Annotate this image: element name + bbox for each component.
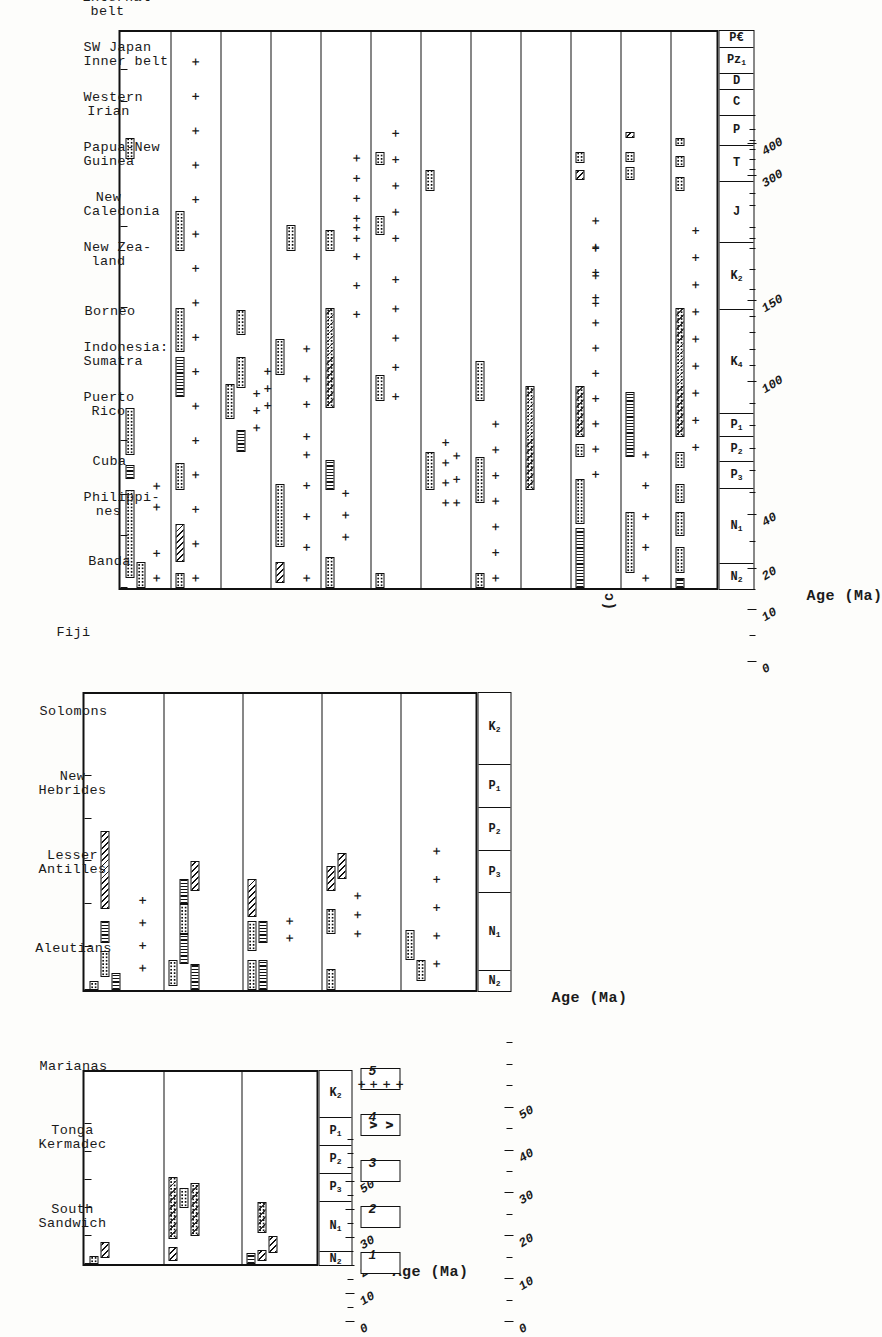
panel-c-plot-area: + ++ ++ + + + + + + + + + + + + + + ++ +… <box>118 30 718 590</box>
stage-cell: J <box>719 181 753 242</box>
activity-bar <box>625 392 634 457</box>
arc-label: Lesser Antilles <box>33 849 112 877</box>
stage-cell: P1 <box>478 764 510 807</box>
arc-row-divider <box>520 32 521 588</box>
panel-c: (c) + ++ ++ + + + + + + + + + + + + + + … <box>0 2 803 662</box>
axis-minor-tick <box>506 1214 512 1215</box>
plus-marker-group: + + + <box>250 387 261 432</box>
plus-marker-group: + + + <box>450 446 461 507</box>
activity-bar <box>375 573 384 588</box>
activity-bar <box>136 562 145 588</box>
axis-title: Age (Ma) <box>551 990 627 1007</box>
activity-bar <box>286 225 295 251</box>
stage-cell: N1 <box>719 488 753 563</box>
plus-marker-group: + + + + + <box>430 839 441 969</box>
stage-cell: C <box>719 89 753 115</box>
plot-top-tick <box>84 818 91 819</box>
arc-label: Indonesia: Sumatra <box>83 341 133 369</box>
activity-bar <box>100 921 109 942</box>
activity-bar <box>190 861 199 891</box>
activity-bar <box>675 308 684 437</box>
arc-row-divider <box>670 32 671 588</box>
axis-minor-tick <box>506 1257 512 1258</box>
activity-bar <box>247 879 256 918</box>
plus-marker-group: + + + + + + + + + + + + + + + + <box>189 47 200 583</box>
activity-bar <box>625 132 634 138</box>
plus-marker-group: + + + + <box>136 891 147 973</box>
legend-number: 5 <box>368 1064 376 1079</box>
axis-minor-tick <box>749 589 755 590</box>
axis-minor-tick <box>749 365 755 366</box>
axis-minor-tick <box>749 238 755 239</box>
plus-marker-group: + + + + + <box>639 441 650 583</box>
activity-bar <box>375 375 384 402</box>
time-scale-bar: N2N1P3P2P1K2 <box>477 692 511 992</box>
arc-row-divider <box>242 694 243 990</box>
activity-bar <box>258 921 267 942</box>
axis-minor-tick <box>749 316 755 317</box>
activity-bar <box>179 934 188 964</box>
activity-bar <box>225 384 234 420</box>
arc-row-divider <box>220 32 221 588</box>
arc-row-divider <box>370 32 371 588</box>
axis-minor-tick <box>749 193 755 194</box>
arc-label: Aleutians <box>34 942 113 956</box>
legend-swatch-chevrons: vv <box>360 1114 400 1136</box>
plot-top-tick <box>120 226 127 227</box>
activity-bar <box>416 960 425 981</box>
activity-bar <box>425 170 434 191</box>
stage-cell: P2 <box>719 436 753 461</box>
arc-label: Western Irian <box>83 91 133 119</box>
activity-bar <box>575 386 584 437</box>
activity-bar <box>325 557 334 588</box>
activity-bar <box>326 909 335 935</box>
axis-tick-label: 40 <box>759 510 779 530</box>
activity-bar <box>179 879 188 905</box>
plus-marker-group: + + <box>283 915 294 943</box>
activity-bar <box>175 211 184 251</box>
activity-bar <box>425 452 434 490</box>
axis-tick-label: 400 <box>759 135 786 159</box>
axis-tick <box>504 1321 513 1322</box>
axis-tick <box>747 175 756 176</box>
arc-row-divider <box>270 32 271 588</box>
legend-number: 2 <box>368 1202 376 1217</box>
plus-marker-group: + + + + + + + <box>489 413 500 583</box>
plus-marker-group: + + <box>150 543 161 583</box>
legend-number: 4 <box>368 1110 376 1125</box>
axis-tick <box>747 514 756 515</box>
activity-bar <box>337 853 346 879</box>
axis-minor-tick <box>749 332 755 333</box>
axis-tick <box>504 1107 513 1108</box>
axis-tick <box>504 1150 513 1151</box>
stage-cell: P2 <box>478 807 510 850</box>
axis-minor-tick <box>749 169 755 170</box>
axis-minor-tick <box>749 248 755 249</box>
arc-row-divider <box>170 32 171 588</box>
legend-swatch-horizontal-lines <box>360 1160 400 1182</box>
plus-marker-group: + + + + <box>439 435 450 508</box>
activity-bar <box>675 138 684 146</box>
activity-bar <box>575 479 584 524</box>
activity-bar <box>275 484 284 546</box>
activity-bar <box>525 386 534 490</box>
plus-marker-group: + + <box>300 336 311 384</box>
axis-tick <box>747 143 756 144</box>
axis-tick-label: 20 <box>516 1231 536 1251</box>
arc-label: Solomons <box>34 705 113 719</box>
axis-tick <box>747 661 756 662</box>
activity-bar <box>575 444 584 457</box>
activity-bar <box>247 921 256 951</box>
activity-bar <box>258 960 267 990</box>
arc-label: SW Japan External belt <box>82 0 132 19</box>
activity-bar <box>326 969 335 990</box>
stage-cell: K4 <box>719 309 753 413</box>
activity-bar <box>275 339 284 375</box>
axis-tick <box>747 300 756 301</box>
stage-cell: P€ <box>719 29 753 47</box>
stage-cell: D <box>719 73 753 89</box>
plus-marker-group: + + + + + <box>350 150 361 243</box>
axis-minor-tick <box>749 470 755 471</box>
